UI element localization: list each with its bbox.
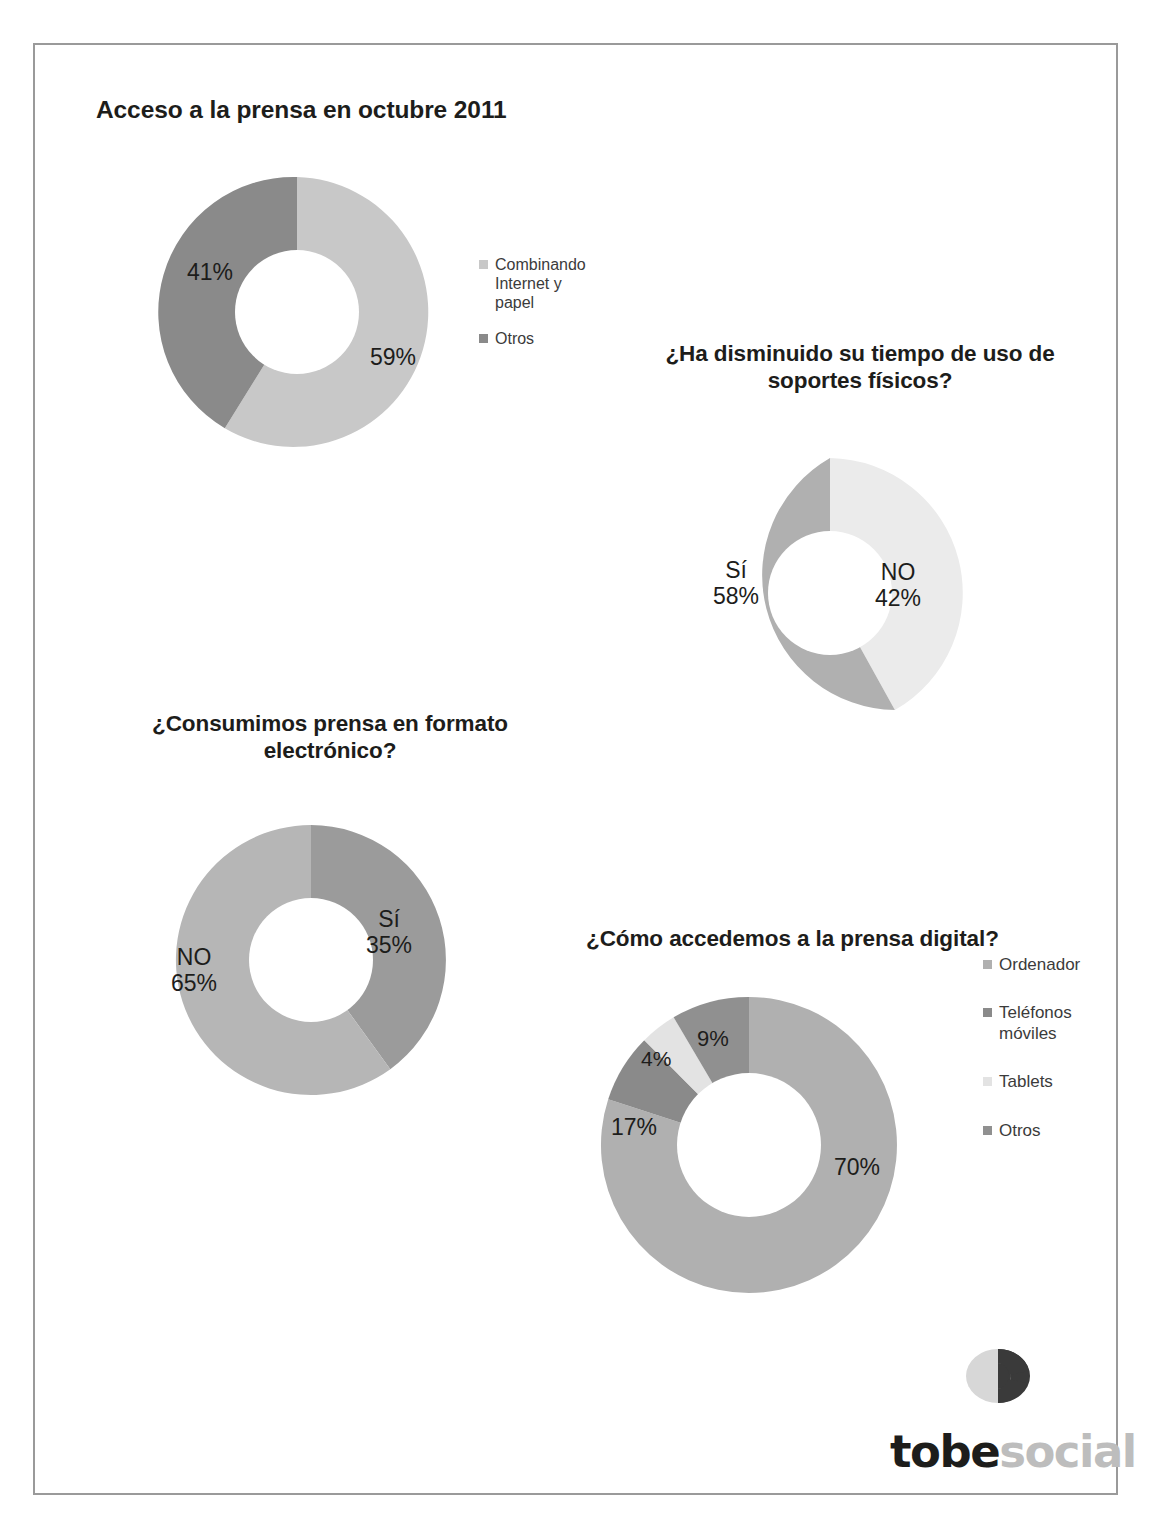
- donut-acceso-svg: [152, 167, 442, 457]
- donut-soportes: NO 42% Sí 58%: [685, 448, 975, 738]
- legend-swatch-icon-otros: [479, 334, 488, 343]
- legend-acceso: Combinando Internet y papel Otros: [479, 255, 679, 352]
- brand-wordmark: tobesocial: [890, 1425, 1136, 1478]
- donut-electronico: Sí 35% NO 65%: [166, 815, 456, 1105]
- legend-item-ordenador: Ordenador: [983, 955, 1149, 975]
- legend-swatch-icon-telefonos: [983, 1008, 992, 1017]
- legend-item-tablets: Tablets: [983, 1072, 1149, 1092]
- slice-label-si-58: Sí 58%: [713, 558, 759, 610]
- legend-item-combinando: Combinando Internet y papel: [479, 255, 679, 313]
- legend-swatch-icon-tablets: [983, 1077, 992, 1086]
- slice-label-9: 9%: [697, 1027, 729, 1052]
- legend-item-otros: Otros: [983, 1121, 1149, 1141]
- slice-label-17: 17%: [611, 1115, 657, 1141]
- chart-prensa-digital: ¿Cómo accedemos a la prensa digital? 70%…: [575, 925, 1149, 1345]
- chart-title-soportes: ¿Ha disminuido su tiempo de uso de sopor…: [620, 340, 1100, 395]
- legend-label-ordenador: Ordenador: [999, 955, 1080, 975]
- chart-formato-electronico: ¿Consumimos prensa en formato electrónic…: [90, 710, 570, 1140]
- donut-hole: [235, 250, 359, 374]
- legend-label-telefonos: Teléfonos móviles: [999, 1003, 1072, 1044]
- infographic-frame: Acceso a la prensa en octubre 2011 59% 4…: [33, 43, 1118, 1495]
- legend-item-telefonos: Teléfonos móviles: [983, 1003, 1149, 1044]
- legend-digital: Ordenador Teléfonos móviles Tablets Otro…: [983, 955, 1149, 1169]
- legend-label-tablets: Tablets: [999, 1072, 1053, 1092]
- donut-acceso: 59% 41%: [152, 167, 442, 457]
- brand-word-tobe: tobe: [890, 1425, 999, 1478]
- chart-title-electronico: ¿Consumimos prensa en formato electrónic…: [120, 710, 540, 765]
- slice-label-70: 70%: [834, 1155, 880, 1181]
- slice-label-59: 59%: [370, 345, 416, 371]
- chart-title-acceso: Acceso a la prensa en octubre 2011: [96, 95, 704, 125]
- slice-label-4: 4%: [641, 1047, 671, 1071]
- brand-word-social: social: [999, 1425, 1136, 1478]
- legend-label-otros: Otros: [999, 1121, 1041, 1141]
- legend-swatch-icon-combinando: [479, 260, 488, 269]
- chart-title-digital: ¿Cómo accedemos a la prensa digital?: [586, 925, 1149, 952]
- donut-digital: 70% 17% 4% 9%: [589, 985, 909, 1305]
- donut-hole: [768, 531, 892, 655]
- legend-label-otros: Otros: [495, 329, 534, 348]
- legend-label-combinando: Combinando Internet y papel: [495, 255, 586, 313]
- donut-hole: [249, 898, 373, 1022]
- slice-label-no-65: NO 65%: [171, 945, 217, 997]
- legend-swatch-icon-otros: [983, 1126, 992, 1135]
- slice-label-no-42: NO 42%: [875, 560, 921, 612]
- slice-label-41: 41%: [187, 260, 233, 286]
- sphere-logo-svg: [965, 1345, 1031, 1407]
- donut-hole: [677, 1073, 821, 1217]
- legend-swatch-icon-ordenador: [983, 960, 992, 969]
- tobesocial-sphere-icon: [965, 1345, 1031, 1411]
- donut-digital-svg: [589, 985, 909, 1305]
- chart-soportes-fisicos: ¿Ha disminuido su tiempo de uso de sopor…: [590, 340, 1130, 760]
- slice-label-si-35: Sí 35%: [366, 907, 412, 959]
- brand-logo: tobesocial: [890, 1345, 1135, 1505]
